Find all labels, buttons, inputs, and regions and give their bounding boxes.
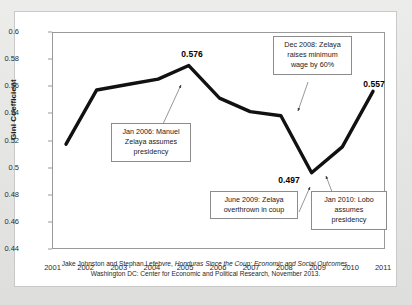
callout-jan-2010-line1: Jan 2010: Lobo <box>316 195 382 205</box>
callout-jan-2006[interactable]: Jan 2006: Manuel Zelaya assumes presiden… <box>111 123 191 162</box>
y-tick-label-6: 0.48 <box>0 191 19 199</box>
chart-card: Gini Coefficient 0.6 0.58 0.56 0.54 0.52… <box>14 11 397 287</box>
screenshot-root: Gini Coefficient 0.6 0.58 0.56 0.54 0.52… <box>0 0 412 305</box>
callout-dec-2008-line3: wage by 60% <box>278 60 347 70</box>
callout-june-2009-line1: June 2009: Zelaya <box>215 195 293 205</box>
callout-dec-2008[interactable]: Dec 2008: Zelaya raises minimum wage by … <box>273 36 352 75</box>
y-tick-label-0: 0.6 <box>0 28 19 36</box>
caption-line-1: Jake Johnston and Stephan Lefebvre, Hond… <box>25 259 386 269</box>
callout-jan-2010-line2: assumes <box>316 205 382 215</box>
data-label-0497: 0.497 <box>278 175 299 185</box>
callout-jan-2006-line3: presidency <box>116 147 186 157</box>
y-tick-label-5: 0.5 <box>0 164 19 172</box>
callout-jan-2006-line2: Zelaya assumes <box>116 137 186 147</box>
callout-jan-2010-line3: presidency <box>316 215 382 225</box>
callout-dec-2008-line1: Dec 2008: Zelaya <box>278 40 347 50</box>
callout-jan-2006-line1: Jan 2006: Manuel <box>116 127 186 137</box>
caption-line-2: Washington DC: Center for Economic and P… <box>25 269 386 279</box>
data-label-0576: 0.576 <box>181 49 202 59</box>
y-tick-label-4: 0.52 <box>0 137 19 145</box>
callout-june-2009-line2: overthrown in coup <box>215 205 293 215</box>
y-tick-label-2: 0.56 <box>0 82 19 90</box>
callout-june-2009[interactable]: June 2009: Zelaya overthrown in coup <box>210 191 298 219</box>
y-tick-label-7: 0.46 <box>0 218 19 226</box>
y-tick-label-1: 0.58 <box>0 55 19 63</box>
y-tick-label-8: 0.44 <box>0 245 19 253</box>
caption-authors: Jake Johnston and Stephan Lefebvre, <box>62 260 175 267</box>
caption-title: Honduras Since the Coup: Economic and So… <box>175 260 348 267</box>
callout-dec-2008-line2: raises minimum <box>278 50 347 60</box>
source-caption: Jake Johnston and Stephan Lefebvre, Hond… <box>25 259 386 279</box>
caption-period: . <box>347 260 349 267</box>
callout-jan-2010[interactable]: Jan 2010: Lobo assumes presidency <box>311 191 387 230</box>
y-tick-label-3: 0.54 <box>0 110 19 118</box>
data-label-0557: 0.557 <box>363 79 384 89</box>
